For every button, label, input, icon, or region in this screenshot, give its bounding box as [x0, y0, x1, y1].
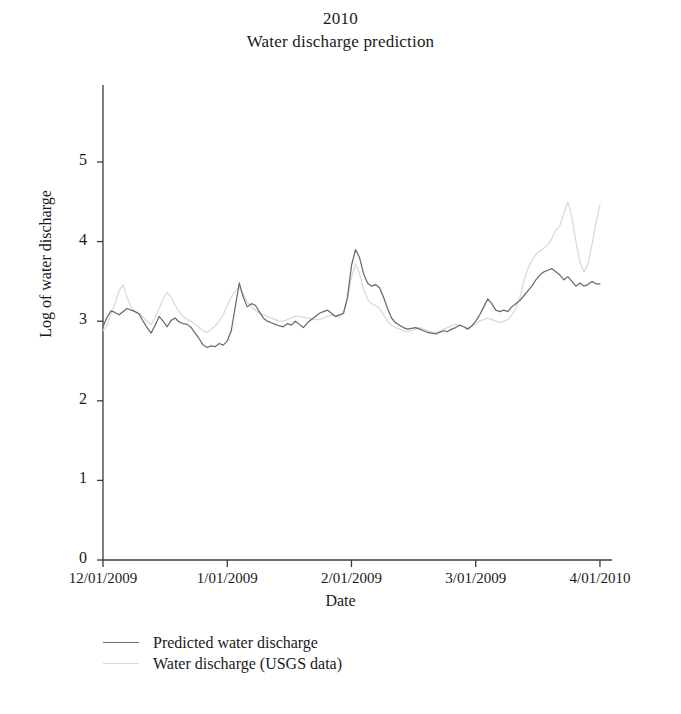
y-tick-label-4: 4 [51, 231, 87, 249]
y-tick-label-2: 2 [51, 390, 87, 408]
legend-label: Predicted water discharge [153, 634, 318, 652]
x-tick-label-1: 1/01/2009 [167, 570, 287, 587]
chart-legend: Predicted water dischargeWater discharge… [103, 632, 523, 674]
data-series [103, 202, 600, 348]
legend-line-swatch-icon [103, 663, 139, 664]
y-tick-label-1: 1 [51, 469, 87, 487]
y-axis-label: Log of water discharge [37, 154, 55, 374]
series-line-predicted-water-discharge [103, 250, 600, 348]
x-tick-label-3: 3/01/2009 [416, 570, 536, 587]
x-tick-label-4: 4/01/2010 [540, 570, 660, 587]
legend-line-swatch-icon [103, 642, 139, 643]
y-tick-label-5: 5 [51, 151, 87, 169]
y-tick-label-0: 0 [51, 549, 87, 567]
legend-item-1: Water discharge (USGS data) [103, 653, 523, 674]
figure-container: 2010 Water discharge prediction 012345 1… [0, 0, 681, 714]
axes [97, 85, 612, 567]
x-tick-label-0: 12/01/2009 [43, 570, 163, 587]
legend-item-0: Predicted water discharge [103, 632, 523, 653]
x-tick-label-2: 2/01/2009 [291, 570, 411, 587]
x-axis-label: Date [0, 592, 681, 610]
legend-label: Water discharge (USGS data) [153, 655, 342, 673]
y-tick-label-3: 3 [51, 310, 87, 328]
